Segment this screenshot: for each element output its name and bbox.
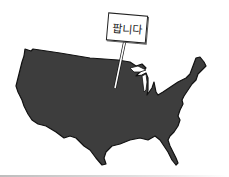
usa-map-silhouette (16, 49, 206, 165)
for-sale-sign: 팝니다 (106, 12, 148, 43)
bottom-edge-shadow (0, 175, 229, 177)
sign-text: 팝니다 (111, 19, 142, 38)
illustration: 팝니다 (0, 0, 229, 177)
